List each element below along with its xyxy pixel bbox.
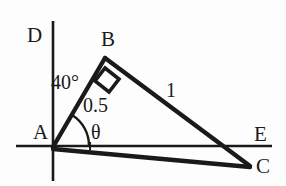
vertex-label-c: C bbox=[256, 156, 270, 177]
vertex-label-a: A bbox=[33, 122, 48, 143]
vertex-label-b: B bbox=[101, 29, 115, 50]
geometry-figure: D B A E C 40° 0.5 θ 1 bbox=[0, 0, 286, 186]
length-label-bc: 1 bbox=[166, 80, 176, 100]
theta-angle-arc bbox=[72, 115, 89, 146]
length-label-ab: 0.5 bbox=[83, 95, 108, 115]
geometry-canvas bbox=[0, 0, 286, 186]
angle-label-theta: θ bbox=[91, 122, 101, 142]
segment-ac bbox=[53, 149, 250, 167]
vertex-label-d: D bbox=[27, 25, 42, 46]
vertex-label-e: E bbox=[254, 124, 267, 145]
angle-label-40-degrees: 40° bbox=[51, 72, 79, 92]
segment-bc bbox=[105, 58, 250, 166]
